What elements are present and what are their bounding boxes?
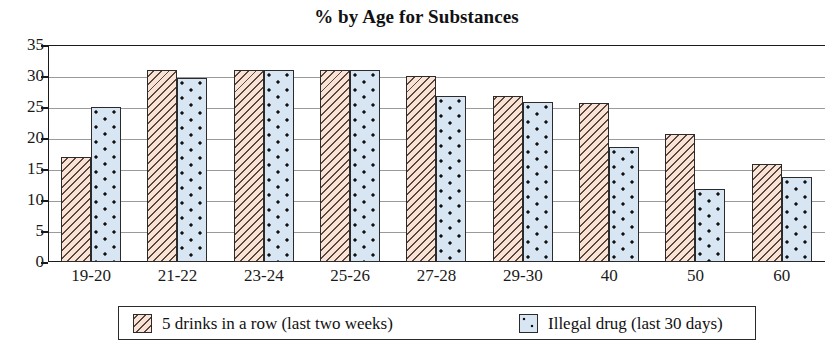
y-axis-label: 0: [4, 253, 44, 270]
legend-entry: Illegal drug (last 30 days): [519, 307, 723, 339]
bar-group: [307, 45, 393, 262]
bar: [177, 78, 207, 262]
bar-group: [221, 45, 307, 262]
y-axis-label: 25: [4, 98, 44, 115]
bar-group: [566, 45, 652, 262]
x-axis-label: 60: [739, 266, 825, 286]
bar: [147, 70, 177, 262]
legend-swatch-icon: [133, 314, 152, 333]
x-axis-label: 27-28: [393, 266, 479, 286]
legend-label: Illegal drug (last 30 days): [548, 314, 723, 333]
chart-container: % by Age for Substances 05101520253035 1…: [0, 0, 833, 345]
bar: [61, 157, 91, 262]
y-axis-label: 35: [4, 36, 44, 53]
bar: [91, 107, 121, 262]
legend-label: 5 drinks in a row (last two weeks): [162, 314, 393, 333]
bar-group: [393, 45, 479, 262]
bar-group: [134, 45, 220, 262]
y-axis-label: 30: [4, 67, 44, 84]
bar: [493, 96, 523, 262]
x-axis-label: 25-26: [307, 266, 393, 286]
y-axis-label: 15: [4, 160, 44, 177]
x-axis-label: 19-20: [48, 266, 134, 286]
bar: [406, 76, 436, 262]
y-axis-label: 20: [4, 129, 44, 146]
bar-group: [48, 45, 134, 262]
bars-layer: [48, 45, 825, 262]
legend-swatch-icon: [519, 314, 538, 333]
bar: [350, 70, 380, 262]
bar: [523, 102, 553, 262]
y-axis-label: 10: [4, 191, 44, 208]
bar: [665, 134, 695, 262]
bar: [264, 70, 294, 262]
x-axis-label: 23-24: [221, 266, 307, 286]
bar: [436, 96, 466, 262]
bar: [609, 147, 639, 262]
bar-group: [480, 45, 566, 262]
bar-group: [739, 45, 825, 262]
chart-title: % by Age for Substances: [0, 6, 833, 28]
chart-legend: 5 drinks in a row (last two weeks)Illega…: [118, 306, 756, 340]
bar: [579, 103, 609, 262]
bar: [752, 164, 782, 262]
y-axis-label: 5: [4, 222, 44, 239]
x-axis-label: 21-22: [134, 266, 220, 286]
x-axis-label: 40: [566, 266, 652, 286]
bar: [234, 70, 264, 262]
x-axis-label: 29-30: [480, 266, 566, 286]
bar: [695, 189, 725, 262]
bar: [782, 177, 812, 262]
x-axis-label: 50: [652, 266, 738, 286]
bar: [320, 70, 350, 262]
legend-entry: 5 drinks in a row (last two weeks): [133, 307, 393, 339]
bar-group: [652, 45, 738, 262]
x-axis: 19-2021-2223-2425-2627-2829-30405060: [48, 266, 825, 294]
